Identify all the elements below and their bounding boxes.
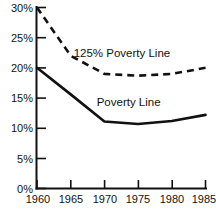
series-line-125-percent-poverty: [37, 8, 206, 76]
y-axis-label-20: 20%: [11, 62, 33, 74]
series-label-125-percent-poverty: 125% Poverty Line: [74, 47, 171, 59]
y-axis-label-10: 10%: [11, 122, 33, 134]
x-axis-label-1970: 1970: [93, 193, 117, 205]
x-axis-label-1975: 1975: [126, 193, 150, 205]
x-axis-label-1965: 1965: [59, 193, 83, 205]
chart-canvas: 30% 25% 20% 15% 10% 5% 0% 1960 1965 1970…: [0, 0, 216, 217]
poverty-line-chart: 30% 25% 20% 15% 10% 5% 0% 1960 1965 1970…: [0, 0, 216, 217]
series-label-poverty: Poverty Line: [97, 96, 161, 108]
x-axis-label-1985: 1985: [192, 193, 216, 205]
y-tick-labels: 30% 25% 20% 15% 10% 5% 0%: [11, 2, 33, 195]
series-annotations: 125% Poverty Line Poverty Line: [74, 47, 171, 108]
y-axis-label-15: 15%: [11, 92, 33, 104]
x-axis-label-1960: 1960: [26, 193, 50, 205]
x-axis-label-1980: 1980: [160, 193, 184, 205]
x-tick-labels: 1960 1965 1970 1975 1980 1985: [26, 193, 216, 205]
x-tick-marks: [37, 180, 206, 189]
y-axis-label-5: 5%: [17, 153, 33, 165]
y-tick-marks: [37, 8, 47, 189]
y-axis-label-25: 25%: [11, 32, 33, 44]
y-axis-label-30: 30%: [11, 2, 33, 14]
